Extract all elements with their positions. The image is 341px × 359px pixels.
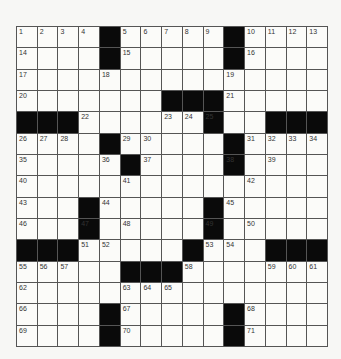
grid-cell[interactable] bbox=[307, 48, 327, 68]
grid-cell[interactable]: 62 bbox=[17, 283, 37, 303]
grid-cell[interactable] bbox=[38, 48, 58, 68]
grid-cell[interactable] bbox=[307, 176, 327, 196]
grid-cell[interactable]: 71 bbox=[245, 326, 265, 346]
grid-cell[interactable] bbox=[79, 91, 99, 111]
grid-cell[interactable]: 32 bbox=[266, 134, 286, 154]
grid-cell[interactable]: 33 bbox=[287, 134, 307, 154]
grid-cell[interactable] bbox=[162, 134, 182, 154]
grid-cell[interactable] bbox=[38, 155, 58, 175]
grid-cell[interactable]: 59 bbox=[266, 262, 286, 282]
grid-cell[interactable] bbox=[162, 48, 182, 68]
grid-cell[interactable]: 54 bbox=[224, 240, 244, 260]
grid-cell[interactable]: 60 bbox=[287, 262, 307, 282]
grid-cell[interactable]: 64 bbox=[141, 283, 161, 303]
grid-cell[interactable]: 67 bbox=[121, 304, 141, 324]
grid-cell[interactable]: 6 bbox=[141, 27, 161, 47]
grid-cell[interactable] bbox=[183, 176, 203, 196]
grid-cell[interactable] bbox=[79, 262, 99, 282]
grid-cell[interactable] bbox=[287, 176, 307, 196]
grid-cell[interactable]: 24 bbox=[183, 112, 203, 132]
grid-cell[interactable]: 23 bbox=[162, 112, 182, 132]
grid-cell[interactable]: 55 bbox=[17, 262, 37, 282]
grid-cell[interactable] bbox=[38, 304, 58, 324]
grid-cell[interactable] bbox=[245, 112, 265, 132]
grid-cell[interactable] bbox=[162, 304, 182, 324]
grid-cell[interactable]: 50 bbox=[245, 219, 265, 239]
grid-cell[interactable] bbox=[141, 240, 161, 260]
grid-cell[interactable]: 43 bbox=[17, 198, 37, 218]
grid-cell[interactable]: 2 bbox=[38, 27, 58, 47]
grid-cell[interactable] bbox=[162, 176, 182, 196]
grid-cell[interactable] bbox=[266, 283, 286, 303]
grid-cell[interactable] bbox=[266, 91, 286, 111]
grid-cell[interactable] bbox=[100, 283, 120, 303]
grid-cell[interactable]: 3 bbox=[58, 27, 78, 47]
grid-cell[interactable] bbox=[245, 155, 265, 175]
grid-cell[interactable] bbox=[183, 304, 203, 324]
grid-cell[interactable] bbox=[266, 326, 286, 346]
grid-cell[interactable] bbox=[38, 176, 58, 196]
grid-cell[interactable] bbox=[100, 262, 120, 282]
grid-cell[interactable]: 17 bbox=[17, 70, 37, 90]
grid-cell[interactable] bbox=[183, 134, 203, 154]
grid-cell[interactable] bbox=[38, 91, 58, 111]
grid-cell[interactable] bbox=[287, 91, 307, 111]
grid-cell[interactable] bbox=[307, 304, 327, 324]
grid-cell[interactable]: 1 bbox=[17, 27, 37, 47]
grid-cell[interactable]: 57 bbox=[58, 262, 78, 282]
grid-cell[interactable] bbox=[141, 48, 161, 68]
grid-cell[interactable]: 22 bbox=[79, 112, 99, 132]
grid-cell[interactable] bbox=[266, 48, 286, 68]
grid-cell[interactable] bbox=[204, 155, 224, 175]
grid-cell[interactable]: 16 bbox=[245, 48, 265, 68]
grid-cell[interactable] bbox=[58, 91, 78, 111]
grid-cell[interactable]: 70 bbox=[121, 326, 141, 346]
grid-cell[interactable] bbox=[287, 70, 307, 90]
grid-cell[interactable] bbox=[141, 326, 161, 346]
grid-cell[interactable] bbox=[38, 326, 58, 346]
grid-cell[interactable]: 44 bbox=[100, 198, 120, 218]
grid-cell[interactable]: 56 bbox=[38, 262, 58, 282]
grid-cell[interactable]: 52 bbox=[100, 240, 120, 260]
grid-cell[interactable] bbox=[141, 219, 161, 239]
grid-cell[interactable] bbox=[224, 112, 244, 132]
grid-cell[interactable] bbox=[38, 283, 58, 303]
grid-cell[interactable] bbox=[307, 91, 327, 111]
grid-cell[interactable]: 40 bbox=[17, 176, 37, 196]
grid-cell[interactable] bbox=[183, 283, 203, 303]
grid-cell[interactable]: 11 bbox=[266, 27, 286, 47]
grid-cell[interactable]: 35 bbox=[17, 155, 37, 175]
grid-cell[interactable] bbox=[100, 176, 120, 196]
grid-cell[interactable] bbox=[204, 70, 224, 90]
grid-cell[interactable] bbox=[287, 304, 307, 324]
grid-cell[interactable] bbox=[307, 283, 327, 303]
grid-cell[interactable] bbox=[141, 91, 161, 111]
grid-cell[interactable] bbox=[204, 326, 224, 346]
grid-cell[interactable] bbox=[121, 91, 141, 111]
grid-cell[interactable]: 53 bbox=[204, 240, 224, 260]
grid-cell[interactable] bbox=[38, 198, 58, 218]
grid-cell[interactable] bbox=[287, 48, 307, 68]
grid-cell[interactable] bbox=[58, 326, 78, 346]
grid-cell[interactable] bbox=[79, 48, 99, 68]
grid-cell[interactable] bbox=[58, 283, 78, 303]
grid-cell[interactable] bbox=[204, 48, 224, 68]
grid-cell[interactable]: 4 bbox=[79, 27, 99, 47]
grid-cell[interactable]: 31 bbox=[245, 134, 265, 154]
grid-cell[interactable] bbox=[183, 48, 203, 68]
grid-cell[interactable] bbox=[307, 198, 327, 218]
grid-cell[interactable] bbox=[121, 240, 141, 260]
grid-cell[interactable] bbox=[266, 198, 286, 218]
grid-cell[interactable] bbox=[183, 198, 203, 218]
grid-cell[interactable]: 68 bbox=[245, 304, 265, 324]
grid-cell[interactable]: 27 bbox=[38, 134, 58, 154]
grid-cell[interactable] bbox=[58, 304, 78, 324]
grid-cell[interactable] bbox=[204, 304, 224, 324]
grid-cell[interactable] bbox=[141, 198, 161, 218]
grid-cell[interactable] bbox=[58, 155, 78, 175]
grid-cell[interactable]: 69 bbox=[17, 326, 37, 346]
grid-cell[interactable] bbox=[266, 176, 286, 196]
grid-cell[interactable]: 18 bbox=[100, 70, 120, 90]
grid-cell[interactable]: 5 bbox=[121, 27, 141, 47]
grid-cell[interactable] bbox=[79, 326, 99, 346]
